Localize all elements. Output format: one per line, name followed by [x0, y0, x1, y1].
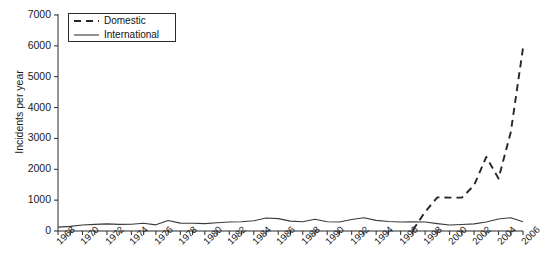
legend-item-international: International [73, 28, 159, 42]
y-tick-label: 6000 [0, 39, 51, 51]
legend-solid-swatch-icon [73, 30, 100, 40]
series-line-domestic [413, 48, 523, 230]
legend-item-domestic: Domestic [73, 14, 146, 28]
y-tick-label: 7000 [0, 8, 51, 20]
legend-label-domestic: Domestic [104, 16, 146, 26]
series-group [58, 48, 523, 230]
y-tick-label: 2000 [0, 162, 51, 174]
axis-group [54, 14, 523, 235]
legend-label-international: International [104, 30, 159, 40]
y-tick-label: 1000 [0, 193, 51, 205]
y-tick-label: 3000 [0, 131, 51, 143]
y-tick-label: 4000 [0, 101, 51, 113]
y-tick-label: 0 [0, 224, 51, 236]
legend-dash-swatch-icon [73, 16, 100, 26]
chart-legend: Domestic International [68, 13, 176, 42]
y-tick-label: 5000 [0, 70, 51, 82]
